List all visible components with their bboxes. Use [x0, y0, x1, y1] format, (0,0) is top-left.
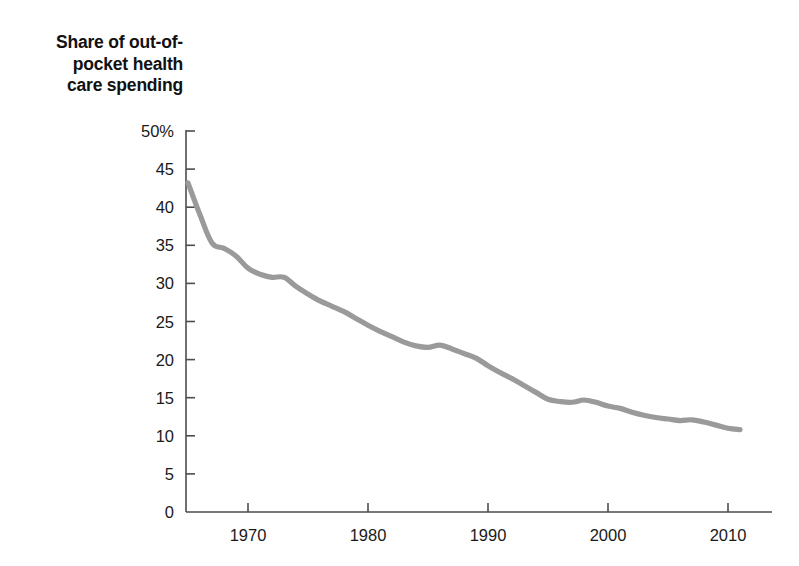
y-axis-tick-label: 10	[156, 427, 174, 445]
y-axis-tick-labels: 05101520253035404550%	[141, 122, 174, 521]
line-chart-plot: 05101520253035404550% 197019801990200020…	[0, 0, 799, 566]
y-axis-tick-label: 35	[156, 236, 174, 254]
y-axis-tick-label: 40	[156, 198, 174, 216]
y-axis-tick-label: 50%	[141, 122, 174, 140]
x-axis-tick-label: 2010	[710, 526, 747, 544]
y-axis-tick-label: 20	[156, 351, 174, 369]
y-axis-tick-label: 30	[156, 274, 174, 292]
x-axis-tick-label: 1980	[350, 526, 387, 544]
data-series-line	[188, 183, 740, 430]
x-axis-tick-labels: 19701980199020002010	[230, 526, 747, 544]
x-axis-tick-label: 2000	[590, 526, 627, 544]
y-axis-tick-label: 25	[156, 313, 174, 331]
chart-container: Share of out-of- pocket health care spen…	[0, 0, 799, 566]
x-axis-tick-label: 1990	[470, 526, 507, 544]
y-axis-tick-label: 15	[156, 389, 174, 407]
x-axis-ticks	[248, 503, 728, 512]
y-axis-tick-label: 45	[156, 160, 174, 178]
y-axis-tick-label: 5	[165, 465, 174, 483]
y-axis-tick-label: 0	[165, 503, 174, 521]
x-axis-tick-label: 1970	[230, 526, 267, 544]
